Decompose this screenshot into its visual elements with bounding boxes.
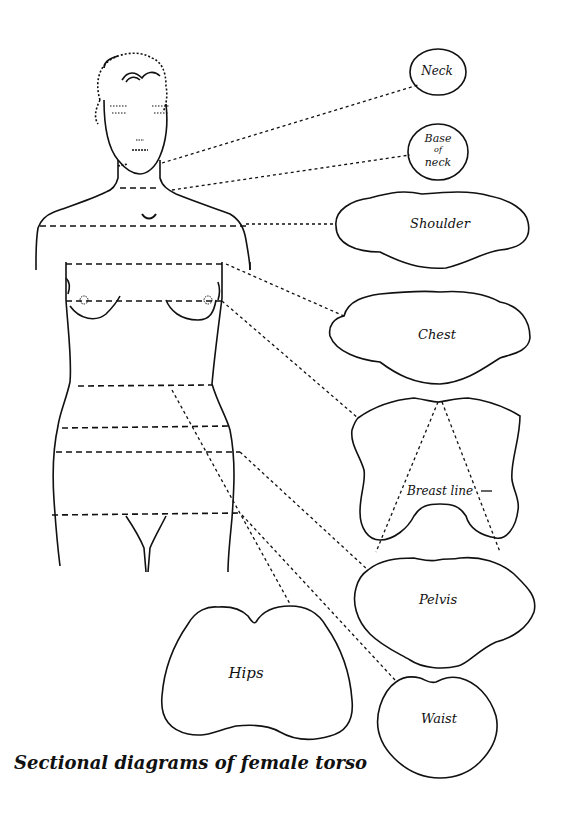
breast-section-outline xyxy=(352,398,520,540)
breast-line-label: Breast line xyxy=(407,485,473,497)
chest-leader xyxy=(226,264,344,316)
face-outline xyxy=(104,100,167,174)
hips-label: Hips xyxy=(228,666,263,681)
neck-label: Neck xyxy=(421,65,453,77)
pelvis-label: Pelvis xyxy=(419,593,457,606)
waist-cut-line xyxy=(78,385,212,386)
figure-caption: Sectional diagrams of female torso xyxy=(14,752,367,773)
waist-leader xyxy=(242,515,395,680)
base-of-neck-label-line1: Base xyxy=(425,133,452,144)
hips-cut-line xyxy=(52,513,242,515)
shoulder-label: Shoulder xyxy=(410,217,470,230)
chest-label: Chest xyxy=(418,328,456,341)
torso-figure xyxy=(36,53,250,572)
diagram-drawing xyxy=(0,0,578,827)
waist-label: Waist xyxy=(421,712,457,725)
leader-lines xyxy=(162,85,418,680)
neck-leader xyxy=(162,85,418,163)
waist-section-outline xyxy=(378,677,497,778)
base-of-neck-leader xyxy=(172,155,410,190)
base-of-neck-label-line3: neck xyxy=(425,157,451,168)
pelvis-section-outline xyxy=(355,558,535,668)
hair-outline xyxy=(98,53,167,112)
base-of-neck-label-line2: of xyxy=(434,146,442,154)
breast-line-guides xyxy=(376,402,500,552)
hips-leader xyxy=(172,390,290,604)
upper-hip-cut-line xyxy=(62,426,232,428)
pelvis-leader xyxy=(240,452,368,570)
sectional-diagram-figure: Neck Base of neck Shoulder Chest Breast … xyxy=(0,0,578,827)
